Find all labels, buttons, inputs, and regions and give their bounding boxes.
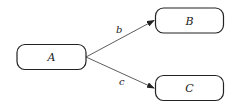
edge-label-c: c xyxy=(119,76,125,87)
node-label-a: A xyxy=(47,51,56,64)
edge-a-to-c: c xyxy=(86,57,154,88)
diagram-canvas: b c A B C xyxy=(0,0,236,106)
node-label-b: B xyxy=(184,15,193,28)
edge-a-to-b: b xyxy=(86,21,154,58)
node-label-c: C xyxy=(185,82,194,95)
node-b: B xyxy=(156,8,224,33)
node-c: C xyxy=(156,76,224,101)
node-a: A xyxy=(17,45,86,70)
edge-label-b: b xyxy=(116,24,122,35)
